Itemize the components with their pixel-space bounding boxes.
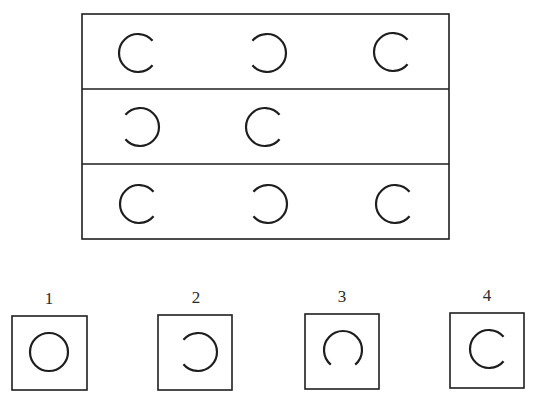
option-box[interactable]: [305, 314, 379, 389]
option-box[interactable]: [450, 313, 524, 388]
circle-open-right-icon: [376, 185, 410, 223]
option-box[interactable]: [158, 315, 232, 390]
option-4[interactable]: [450, 313, 524, 388]
circle-open-left-icon: [125, 108, 159, 146]
matrix-cell: [125, 108, 159, 146]
matrix-cell: [252, 34, 286, 72]
matrix-cell: [246, 108, 280, 146]
circle-open-left-icon: [253, 185, 287, 223]
circle-open-right-icon: [374, 33, 408, 71]
option-label-2: 2: [192, 289, 201, 306]
option-label-3: 3: [338, 288, 347, 305]
answer-options: [12, 313, 524, 390]
matrix-frame: [82, 14, 449, 239]
option-label-4: 4: [483, 287, 492, 304]
matrix-row-3: [120, 185, 410, 223]
puzzle-matrix: [82, 14, 449, 239]
matrix-cell: [374, 33, 408, 71]
matrix-cell: [120, 185, 154, 223]
option-1[interactable]: [12, 316, 87, 390]
matrix-row-2: [125, 108, 279, 146]
matrix-cell: [119, 34, 153, 72]
circle-open-left-icon: [252, 34, 286, 72]
option-3[interactable]: [305, 314, 379, 389]
option-label-1: 1: [45, 290, 54, 307]
matrix-row-1: [119, 33, 408, 72]
circle-open-right-icon: [119, 34, 153, 72]
puzzle-canvas: [0, 0, 551, 412]
matrix-cell: [253, 185, 287, 223]
option-box[interactable]: [12, 316, 87, 390]
circle-open-right-icon: [246, 108, 280, 146]
matrix-cell: [376, 185, 410, 223]
circle-open-right-icon: [120, 185, 154, 223]
option-2[interactable]: [158, 315, 232, 390]
